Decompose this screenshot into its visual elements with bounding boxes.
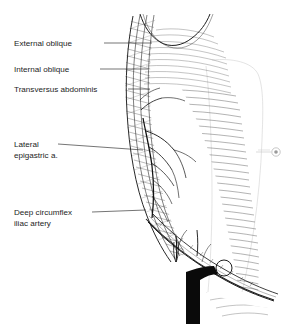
anatomical-illustration: External oblique Internal oblique Transv… bbox=[0, 0, 294, 324]
label-deep-circumflex-iliac-line2: iliac artery bbox=[14, 219, 52, 228]
label-internal-oblique: Internal oblique bbox=[14, 65, 70, 74]
figure-canvas: External oblique Internal oblique Transv… bbox=[0, 0, 294, 324]
label-lateral-epigastric-line1: Lateral bbox=[14, 140, 39, 149]
label-lateral-epigastric-line2: epigastric a. bbox=[14, 151, 58, 160]
label-deep-circumflex-iliac-line1: Deep circumflex bbox=[14, 208, 72, 217]
label-external-oblique: External oblique bbox=[14, 39, 73, 48]
label-transversus-abdominis: Transversus abdominis bbox=[14, 85, 97, 94]
